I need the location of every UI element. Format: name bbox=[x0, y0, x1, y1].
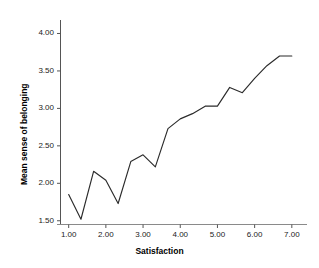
y-axis-tick-label: 4.00 bbox=[18, 28, 54, 37]
plot-area bbox=[0, 0, 319, 268]
x-axis-tick-label: 6.00 bbox=[241, 230, 269, 239]
y-axis-tick-label: 3.50 bbox=[18, 66, 54, 75]
line-chart: 1.502.002.503.003.504.00 1.002.003.004.0… bbox=[0, 0, 319, 268]
x-axis-tick-label: 3.00 bbox=[129, 230, 157, 239]
x-axis-tick-label: 5.00 bbox=[203, 230, 231, 239]
x-axis-tick-label: 7.00 bbox=[278, 230, 306, 239]
y-axis-ticks bbox=[57, 33, 61, 220]
data-series-line bbox=[69, 56, 292, 219]
y-axis-tick-label: 1.50 bbox=[18, 216, 54, 225]
x-axis-title: Satisfaction bbox=[0, 246, 319, 256]
y-axis-title: Mean sense of belonging bbox=[19, 83, 29, 185]
x-axis-tick-label: 2.00 bbox=[92, 230, 120, 239]
axis-lines bbox=[57, 20, 307, 225]
x-axis-tick-label: 4.00 bbox=[166, 230, 194, 239]
x-axis-ticks bbox=[69, 225, 292, 229]
x-axis-tick-label: 1.00 bbox=[55, 230, 83, 239]
